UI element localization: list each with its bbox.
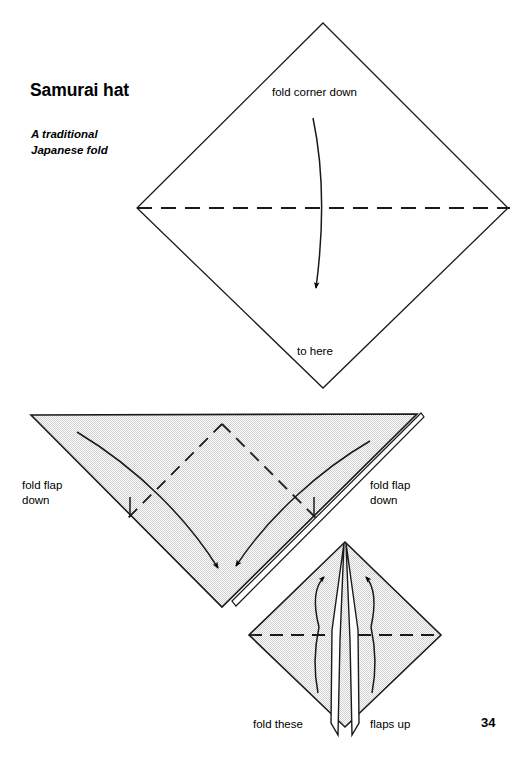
step-1-diagram [137,23,510,388]
paper-diamond-step1 [137,23,508,388]
page-subtitle: A traditional Japanese fold [31,127,108,158]
origami-diagrams [0,0,511,769]
origami-instruction-page: Samurai hat A traditional Japanese fold … [0,0,511,769]
page-title: Samurai hat [30,79,129,101]
step-3-diagram [249,542,441,735]
label-flaps-up: flaps up [370,717,410,732]
label-to-here: to here [297,344,333,359]
label-fold-flap-down-right: fold flap down [370,478,410,507]
label-fold-these: fold these [253,717,303,732]
label-fold-flap-down-left: fold flap down [22,478,62,507]
label-fold-corner-down: fold corner down [272,85,357,100]
page-number: 34 [481,715,495,732]
